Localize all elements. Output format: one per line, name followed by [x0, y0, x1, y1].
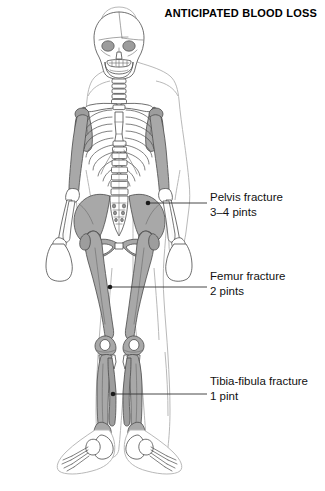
callout-pelvis-label: Pelvis fracture — [210, 191, 283, 203]
callout-tibia-label: Tibia-fibula fracture — [210, 375, 308, 387]
callout-femur-label: Femur fracture — [210, 270, 285, 282]
callout-pelvis-amount: 3–4 pints — [210, 205, 283, 220]
left-foot-group — [57, 422, 115, 474]
cervical-spine-group — [112, 79, 127, 104]
page-title: ANTICIPATED BLOOD LOSS — [165, 7, 318, 19]
callout-tibia-amount: 1 pint — [210, 389, 308, 404]
callout-femur-amount: 2 pints — [210, 284, 285, 299]
callout-femur: Femur fracture 2 pints — [210, 269, 285, 298]
callout-pelvis: Pelvis fracture 3–4 pints — [210, 190, 283, 219]
callout-tibia: Tibia-fibula fracture 1 pint — [210, 374, 308, 403]
skeleton-illustration: .bone { fill:#ffffff; stroke:#4a4a4a; st… — [0, 0, 325, 491]
